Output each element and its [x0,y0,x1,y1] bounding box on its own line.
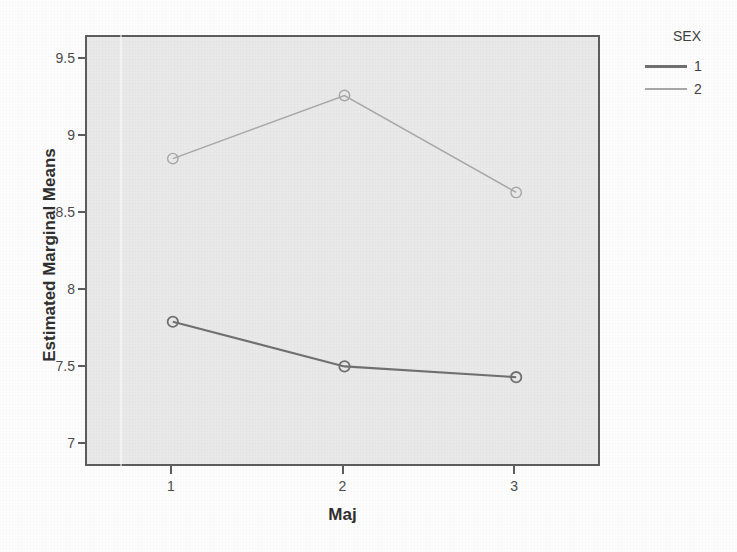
x-axis-tick-label: 2 [323,478,363,494]
legend: SEX 12 [645,28,735,102]
y-axis-tick-label: 9 [67,127,78,143]
legend-line-swatch [645,88,687,90]
legend-items: 12 [645,56,735,99]
y-axis-tick-mark [78,134,85,136]
legend-item-label: 1 [694,58,702,74]
series-group [168,90,522,382]
x-axis-tick-mark [513,466,515,474]
x-axis-tick-label: 1 [151,478,191,494]
plot-canvas [87,37,602,468]
legend-title: SEX [673,28,735,44]
profile-plot-figure: 9.598.587.57 123 Maj Estimated Marginal … [0,0,737,552]
x-axis-tick-mark [170,466,172,474]
y-axis-tick-mark [78,211,85,213]
y-axis-tick-mark [78,442,85,444]
y-axis-tick-label: 7 [67,435,78,451]
legend-item-1[interactable]: 1 [645,56,735,76]
series-line-1 [173,322,516,377]
x-axis-tick-mark [342,466,344,474]
legend-item-label: 2 [694,81,702,97]
y-axis-tick-label: 8 [67,281,78,297]
legend-item-2[interactable]: 2 [645,79,735,99]
y-axis-tick-mark [78,288,85,290]
x-axis-title: Maj [85,505,600,525]
y-axis-title: Estimated Marginal Means [40,45,60,465]
x-axis-tick-label: 3 [494,478,534,494]
series-line-2 [173,95,516,192]
plot-area [85,35,600,466]
y-axis-tick-mark [78,365,85,367]
y-axis-tick-mark [78,57,85,59]
legend-line-swatch [645,65,687,68]
